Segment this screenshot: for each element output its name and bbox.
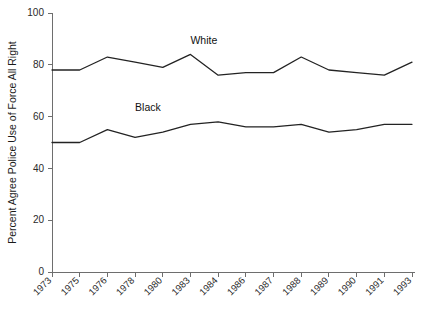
series-line-white (52, 54, 412, 75)
y-tick-label: 40 (33, 163, 45, 174)
line-chart: 020406080100 197319751976197819801983198… (0, 0, 427, 309)
x-tick-label: 1993 (391, 275, 414, 298)
series-lines (52, 54, 412, 142)
x-tick-label: 1986 (225, 275, 248, 298)
series-label-black: Black (135, 101, 161, 113)
x-tick-label: 1988 (280, 275, 303, 298)
series-label-white: White (190, 34, 217, 46)
y-tick-label: 100 (27, 7, 44, 18)
y-axis-title: Percent Agree Police Use of Force All Ri… (6, 41, 18, 244)
y-axis: 020406080100 (27, 7, 52, 277)
series-annotations: WhiteBlack (135, 34, 217, 113)
x-tick-label: 1984 (197, 275, 220, 298)
x-tick-label: 1975 (58, 275, 81, 298)
x-axis: 1973197519761978198019831984198619871988… (31, 272, 415, 297)
x-tick-label: 1987 (252, 275, 275, 298)
x-tick-label: 1983 (169, 275, 192, 298)
y-tick-label: 60 (33, 111, 45, 122)
series-line-black (52, 122, 412, 143)
x-tick-label: 1980 (141, 275, 164, 298)
x-tick-label: 1978 (114, 275, 137, 298)
x-tick-label: 1991 (363, 275, 386, 298)
axis-titles: Percent Agree Police Use of Force All Ri… (6, 41, 18, 244)
x-tick-label: 1973 (31, 275, 54, 298)
y-tick-label: 20 (33, 214, 45, 225)
x-tick-label: 1976 (86, 275, 109, 298)
x-tick-label: 1990 (335, 275, 358, 298)
chart-container: 020406080100 197319751976197819801983198… (0, 0, 427, 309)
x-tick-label: 1989 (308, 275, 331, 298)
y-tick-label: 80 (33, 59, 45, 70)
